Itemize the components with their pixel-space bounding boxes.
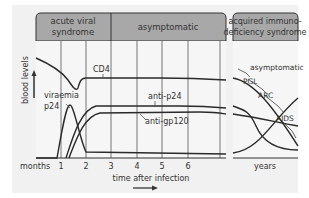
label-anti-gp120: anti-gp120 [145, 117, 189, 126]
label-p24: p24 [44, 102, 59, 111]
x-tick-3: 3 [108, 162, 113, 171]
phase-asymptomatic: asymptomatic [138, 22, 199, 32]
x-tick-1: 1 [58, 162, 63, 171]
x-axis-label: time after infection [113, 174, 190, 183]
hiv-course-chart: acute viral syndrome asymptomatic acquir… [0, 0, 309, 198]
phase-acute-line2: syndrome [52, 27, 94, 37]
label-cd4: CD4 [93, 65, 110, 74]
label-viraemia: viraemia [44, 91, 79, 100]
arrow-up-icon [32, 70, 37, 76]
label-pgl: PGL [243, 77, 258, 86]
x-unit-label: months [20, 162, 50, 171]
right-x-label: years [254, 162, 276, 171]
label-asymptomatic-right: asymptomatic [250, 63, 304, 72]
phase-acute-line1: acute viral [51, 16, 96, 26]
arrow-right-icon [152, 186, 158, 191]
x-tick-6: 6 [185, 162, 190, 171]
x-tick-4: 4 [134, 162, 139, 171]
phase-aids-line2: deficiency syndrome [223, 28, 306, 37]
phase-aids-line1: acquired immuno- [228, 17, 301, 26]
y-axis-label: blood levels [21, 56, 30, 104]
x-tick-5: 5 [159, 162, 164, 171]
label-aids: AIDS [276, 114, 294, 123]
x-tick-2: 2 [83, 162, 88, 171]
label-arc: ARC [258, 91, 273, 100]
label-anti-p24: anti-p24 [148, 92, 181, 101]
